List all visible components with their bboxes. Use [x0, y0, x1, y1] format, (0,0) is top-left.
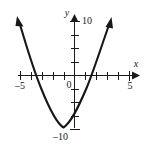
y-axis-label: y: [64, 7, 70, 18]
parabola-graph-figure: x y 10 –10 –5 5 0: [0, 0, 149, 144]
x-axis-arrow-icon: [132, 72, 140, 80]
graph-canvas: x y 10 –10 –5 5 0: [0, 0, 149, 144]
y-tick-label-10: 10: [82, 15, 92, 26]
y-axis-arrow-icon: [71, 14, 79, 22]
y-tick-label--10: –10: [52, 131, 68, 142]
parabola-right-arrow-icon: [106, 17, 114, 29]
origin-label: 0: [67, 79, 72, 90]
parabola-left-arrow-icon: [16, 16, 24, 27]
x-tick-label-5: 5: [128, 80, 133, 91]
y-axis-group: [71, 14, 79, 128]
x-tick-label--5: –5: [14, 80, 25, 91]
x-axis-label: x: [133, 58, 139, 69]
